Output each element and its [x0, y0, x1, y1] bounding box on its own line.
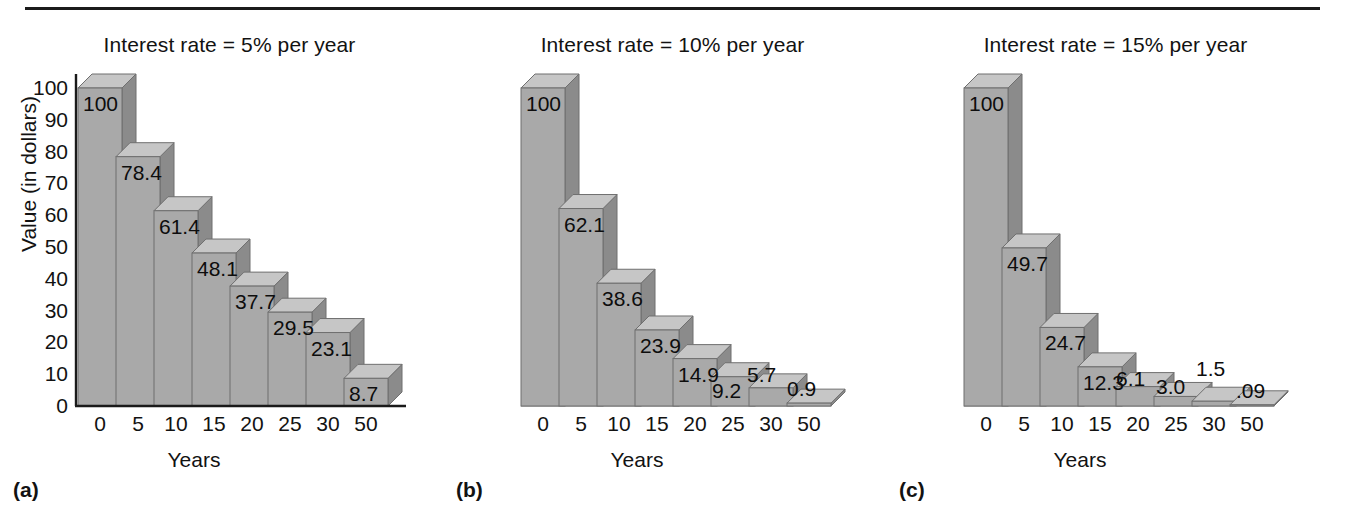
x-axis-tick-label: 0 [80, 412, 120, 436]
x-axis-tick-label: 15 [1080, 412, 1120, 436]
x-axis-title: Years [443, 448, 831, 472]
bar-value-label: 1.5 [1196, 358, 1225, 379]
x-axis-tick-label: 25 [270, 412, 310, 436]
bar-front-face [116, 157, 160, 406]
bar-front-face [787, 403, 831, 406]
bar-value-label: 5.7 [747, 364, 776, 385]
bar-front-face [154, 211, 198, 406]
chart-panel-b: Interest rate = 10% per year10062.138.62… [443, 0, 902, 524]
x-axis-tick-label: 30 [1194, 412, 1234, 436]
bar-value-label: 0.9 [787, 378, 816, 399]
bar-value-label: 78.4 [121, 162, 162, 183]
bar-value-label: 23.9 [640, 335, 681, 356]
x-axis-tick-label: 20 [675, 412, 715, 436]
x-axis-tick-label: 20 [1118, 412, 1158, 436]
bar-value-label: 100 [83, 93, 118, 114]
x-axis-tick-label: 20 [232, 412, 272, 436]
bar-value-label: 9.2 [712, 380, 741, 401]
bar-front-face [78, 88, 122, 406]
bars-canvas [443, 0, 902, 524]
bar-value-label: 8.7 [349, 383, 378, 404]
x-axis-tick-label: 25 [713, 412, 753, 436]
chart-panel-c: Interest rate = 15% per year10049.724.71… [886, 0, 1345, 524]
bar-value-label: 6.1 [1116, 368, 1145, 389]
bar-front-face [1230, 405, 1274, 406]
x-axis-title: Years [886, 448, 1274, 472]
x-axis-tick-label: 5 [118, 412, 158, 436]
x-axis-tick-label: 0 [966, 412, 1006, 436]
bar-front-face [521, 88, 565, 406]
x-axis-tick-label: 15 [637, 412, 677, 436]
x-axis-tick-label: 5 [561, 412, 601, 436]
bar-value-label: 61.4 [159, 216, 200, 237]
bar-value-label: 62.1 [564, 214, 605, 235]
bar-value-label: 3.0 [1156, 376, 1185, 397]
bar-value-label: 37.7 [235, 291, 276, 312]
bar-value-label: 24.7 [1045, 332, 1086, 353]
x-axis-title: Years [0, 448, 388, 472]
x-axis-tick-label: 10 [1042, 412, 1082, 436]
panel-letter: (c) [899, 478, 925, 502]
bar-front-face [964, 88, 1008, 406]
bar-front-face [559, 209, 603, 406]
bar-value-label: 100 [526, 93, 561, 114]
x-axis-tick-label: 10 [156, 412, 196, 436]
x-axis-tick-label: 30 [308, 412, 348, 436]
x-axis-tick-label: 25 [1156, 412, 1196, 436]
x-axis-tick-label: 50 [789, 412, 829, 436]
x-axis-tick-label: 5 [1004, 412, 1044, 436]
x-axis-tick-label: 10 [599, 412, 639, 436]
bar-value-label: 38.6 [602, 288, 643, 309]
panel-letter: (b) [456, 478, 483, 502]
bar-value-label: .09 [1236, 380, 1265, 401]
panel-letter: (a) [13, 478, 39, 502]
bar-value-label: 49.7 [1007, 253, 1048, 274]
figure-root: Interest rate = 5% per year1009080706050… [0, 0, 1345, 524]
bars-canvas [886, 0, 1345, 524]
bar-value-label: 29.5 [273, 317, 314, 338]
chart-panel-a: Interest rate = 5% per year1009080706050… [0, 0, 459, 524]
bar-value-label: 48.1 [197, 258, 238, 279]
bar-value-label: 100 [969, 93, 1004, 114]
x-axis-tick-label: 50 [346, 412, 386, 436]
x-axis-tick-label: 50 [1232, 412, 1272, 436]
bar-value-label: 23.1 [311, 338, 352, 359]
x-axis-tick-label: 30 [751, 412, 791, 436]
x-axis-tick-label: 0 [523, 412, 563, 436]
x-axis-tick-label: 15 [194, 412, 234, 436]
